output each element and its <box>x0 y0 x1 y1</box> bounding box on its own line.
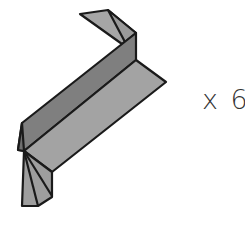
left-edge-fold <box>18 123 24 151</box>
quantity-label: x 6 <box>202 84 245 115</box>
